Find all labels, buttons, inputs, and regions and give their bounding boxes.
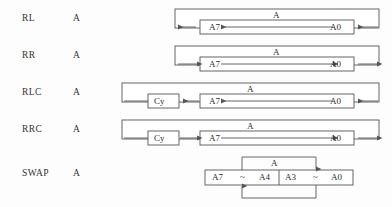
outer-label-swap: A (271, 158, 278, 168)
outer-label-rr: A (273, 47, 280, 57)
msb-label-swap-high: A7 (212, 172, 223, 182)
outer-label-rrc: A (247, 121, 254, 131)
msb-label-swap-low: A3 (285, 172, 296, 182)
lsb-label-rr: A0 (330, 59, 341, 69)
lsb-label-rl: A0 (330, 22, 341, 32)
lsb-label-rlc: A0 (330, 96, 341, 106)
lsb-label-rrc: A0 (330, 133, 341, 143)
msb-label-rl: A7 (209, 22, 220, 32)
tilde-swap-low: ~ (313, 172, 318, 182)
lsb-label-swap-high: A4 (259, 172, 270, 182)
carry-label-rrc: Cy (154, 133, 165, 143)
rotate-instructions-diagram: RL A RR A RLC A RRC A SWAP A (0, 0, 392, 207)
msb-label-rr: A7 (209, 59, 220, 69)
msb-label-rlc: A7 (209, 96, 220, 106)
carry-label-rlc: Cy (154, 96, 165, 106)
tilde-swap-high: ~ (240, 172, 245, 182)
outer-label-rlc: A (247, 84, 254, 94)
msb-label-rrc: A7 (209, 133, 220, 143)
outer-label-rl: A (273, 10, 280, 20)
lsb-label-swap-low: A0 (331, 172, 342, 182)
